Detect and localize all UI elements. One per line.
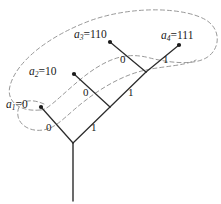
tree-edges-group [41, 42, 179, 201]
leaf-dot-a1 [39, 105, 43, 109]
edge-bit-root-right: 1 [91, 122, 97, 133]
edge-internal1-to-a2 [74, 74, 110, 107]
edge-bit-l1-right: 1 [128, 87, 134, 98]
leaf-dot-a4 [177, 43, 181, 47]
leaf-value-a4: 111 [177, 29, 193, 41]
leaf-value-a1: 0 [22, 98, 28, 110]
leaf-label-a3: a3=110 [74, 29, 107, 41]
leaf-value-a3: 110 [90, 28, 107, 40]
outer-set-curve-path [9, 10, 217, 110]
edge-bit-l2-left: 0 [120, 54, 126, 65]
edge-bit-root-left: 0 [46, 122, 52, 133]
edge-internal2-to-a3 [110, 42, 146, 72]
code-tree-figure: a1=0 a2=10 a3=110 a4=111 0 1 0 1 0 1 [0, 0, 221, 204]
leaf-label-a1: a1=0 [6, 99, 28, 111]
leaf-label-a2: a2=10 [29, 66, 57, 78]
leaf-label-a4: a4=111 [161, 30, 193, 42]
leaf-dot-a3 [108, 40, 112, 44]
edge-bit-l2-right: 1 [163, 54, 169, 65]
leaf-dot-a2 [72, 72, 76, 76]
edge-bit-l1-left: 0 [83, 87, 89, 98]
leaf-dots-group [39, 40, 181, 109]
leaf-value-a2: 10 [45, 65, 57, 77]
